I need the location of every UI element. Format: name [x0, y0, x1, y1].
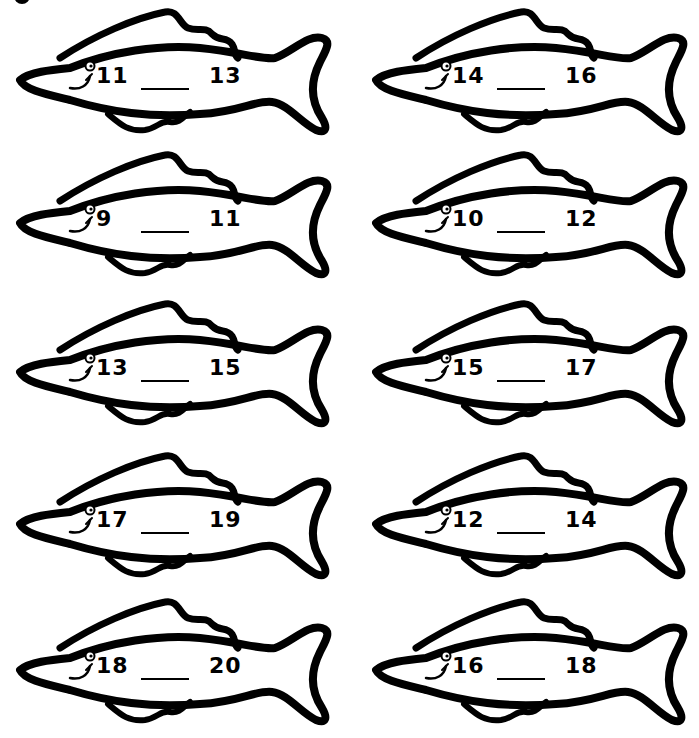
fish-8-left-number: 12 — [452, 507, 485, 533]
fish-1-right-number: 13 — [209, 63, 242, 89]
fish-card-10: 16 18 — [356, 590, 686, 730]
fish-outline-icon — [356, 444, 686, 584]
fish-8-answer-blank[interactable] — [497, 532, 545, 534]
fish-3-answer-blank[interactable] — [141, 231, 189, 233]
fish-5-right-number: 15 — [209, 355, 242, 381]
fish-4-answer-blank[interactable] — [497, 231, 545, 233]
fish-10-left-number: 16 — [452, 653, 485, 679]
fish-outline-icon — [0, 0, 330, 140]
fish-8-right-number: 14 — [565, 507, 598, 533]
fish-outline-icon — [0, 143, 330, 283]
fish-card-9: 18 20 — [0, 590, 330, 730]
fish-4-left-number: 10 — [452, 206, 485, 232]
fish-5-answer-blank[interactable] — [141, 380, 189, 382]
fish-card-2: 14 16 — [356, 0, 686, 140]
fish-1-left-number: 11 — [96, 63, 129, 89]
fish-3-right-number: 11 — [209, 206, 242, 232]
fish-2-right-number: 16 — [565, 63, 598, 89]
fish-outline-icon — [0, 292, 330, 432]
fish-6-answer-blank[interactable] — [497, 380, 545, 382]
fish-2-answer-blank[interactable] — [497, 88, 545, 90]
fish-outline-icon — [356, 590, 686, 730]
fish-outline-icon — [0, 444, 330, 584]
fish-outline-icon — [356, 0, 686, 140]
fish-1-answer-blank[interactable] — [141, 88, 189, 90]
fish-card-4: 10 12 — [356, 143, 686, 283]
fish-card-7: 17 19 — [0, 444, 330, 584]
fish-6-right-number: 17 — [565, 355, 598, 381]
fish-card-8: 12 14 — [356, 444, 686, 584]
fish-7-answer-blank[interactable] — [141, 532, 189, 534]
fish-card-1: 11 13 — [0, 0, 330, 140]
fish-10-right-number: 18 — [565, 653, 598, 679]
fish-3-left-number: 9 — [96, 206, 112, 232]
fish-card-6: 15 17 — [356, 292, 686, 432]
fish-5-left-number: 13 — [96, 355, 129, 381]
fish-9-right-number: 20 — [209, 653, 242, 679]
fish-9-left-number: 18 — [96, 653, 129, 679]
fish-9-answer-blank[interactable] — [141, 678, 189, 680]
fish-6-left-number: 15 — [452, 355, 485, 381]
fish-outline-icon — [356, 292, 686, 432]
fish-card-3: 9 11 — [0, 143, 330, 283]
fish-2-left-number: 14 — [452, 63, 485, 89]
fish-4-right-number: 12 — [565, 206, 598, 232]
fish-7-right-number: 19 — [209, 507, 242, 533]
fish-10-answer-blank[interactable] — [497, 678, 545, 680]
fish-outline-icon — [0, 590, 330, 730]
fish-7-left-number: 17 — [96, 507, 129, 533]
fish-card-5: 13 15 — [0, 292, 330, 432]
fish-outline-icon — [356, 143, 686, 283]
